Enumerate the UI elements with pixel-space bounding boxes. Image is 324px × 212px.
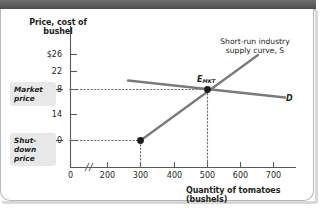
market-price-callout: Market price — [10, 82, 56, 106]
x-tick-label-200: 200 — [94, 171, 122, 180]
y-tick-marks — [71, 55, 78, 141]
figure-container: Price, cost of bushel Quantity of tomato… — [0, 0, 324, 212]
x-tick-label-0: 0 — [57, 171, 85, 180]
supply-curve — [141, 55, 259, 141]
equilibrium-point — [204, 86, 211, 93]
y-tick-label-14: 14 — [34, 110, 62, 119]
x-tick-label-500: 500 — [194, 171, 222, 180]
equilibrium-label-subscript: MKT — [202, 78, 215, 84]
y-axis-title: Price, cost of bushel — [24, 18, 92, 36]
supply-curve-label: Short-run industry supply curve, S — [203, 38, 307, 55]
x-axis-title: Quantity of tomatoes (bushels) — [186, 186, 324, 204]
x-tick-label-700: 700 — [260, 171, 288, 180]
equilibrium-point-label: EMKT — [197, 75, 215, 84]
y-tick-label-22: 22 — [34, 67, 62, 76]
supply-curve-label-line1: Short-run industry — [220, 37, 289, 46]
demand-curve-label: D — [286, 94, 293, 103]
y-tick-label-26: $26 — [34, 50, 62, 59]
shutdown-point — [137, 137, 144, 144]
x-tick-label-300: 300 — [127, 171, 155, 180]
x-tick-label-400: 400 — [161, 171, 189, 180]
shutdown-price-callout: Shut-down price — [10, 133, 56, 166]
x-tick-marks — [71, 162, 274, 168]
supply-curve-label-line2: supply curve, S — [226, 46, 284, 55]
x-tick-label-600: 600 — [227, 171, 255, 180]
